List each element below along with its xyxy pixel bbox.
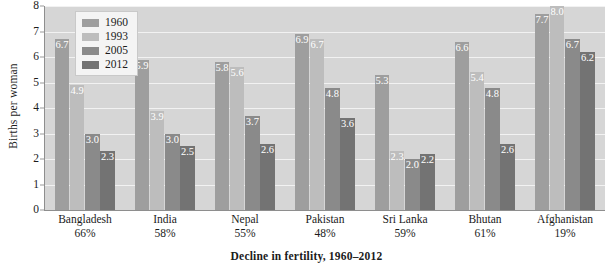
y-axis-tick-label: 8 xyxy=(33,0,39,12)
x-axis-line xyxy=(45,210,605,211)
bar-value-label: 2.5 xyxy=(181,147,194,158)
bar: 2.0 xyxy=(405,159,420,210)
x-axis-category-name: Bhutan xyxy=(468,213,501,226)
bar: 6.7 xyxy=(565,39,580,210)
bar-value-label: 5.6 xyxy=(231,68,244,79)
legend-swatch-icon xyxy=(82,61,99,69)
bar-value-label: 2.3 xyxy=(101,152,114,163)
x-axis-category-name: Afghanistan xyxy=(537,213,593,226)
bar: 5.6 xyxy=(230,67,245,210)
bar: 6.7 xyxy=(55,39,70,210)
x-axis-category-percent: 55% xyxy=(231,226,258,240)
legend: 1960199320052012 xyxy=(75,11,138,76)
bar: 3.9 xyxy=(150,111,165,210)
bar: 6.9 xyxy=(295,34,310,210)
bar-value-label: 4.8 xyxy=(486,89,499,100)
bar-value-label: 4.9 xyxy=(71,86,84,97)
y-axis-tick-label: 4 xyxy=(33,102,39,114)
bar-value-label: 3.6 xyxy=(341,119,354,130)
x-axis-category-name: Bangladesh xyxy=(58,213,112,226)
y-axis-title: Births per woman xyxy=(2,0,24,212)
x-axis-category: Bhutan61% xyxy=(468,213,501,240)
bar-group: 5.85.63.72.6 xyxy=(205,6,285,210)
bar-value-label: 6.6 xyxy=(455,43,468,54)
bar: 2.2 xyxy=(420,154,435,210)
bar: 8.0 xyxy=(550,6,565,210)
bar-value-label: 4.8 xyxy=(326,89,339,100)
x-axis-categories: Bangladesh66%India58%Nepal55%Pakistan48%… xyxy=(45,213,605,247)
bar-value-label: 7.7 xyxy=(535,15,548,26)
y-axis-tick-label: 1 xyxy=(33,179,39,191)
legend-item-label: 1960 xyxy=(105,17,128,29)
legend-swatch-icon xyxy=(82,19,99,27)
bar: 6.7 xyxy=(310,39,325,210)
bar-value-label: 6.7 xyxy=(566,40,579,51)
bar: 3.0 xyxy=(165,134,180,211)
bar: 7.7 xyxy=(535,14,550,210)
legend-item[interactable]: 2005 xyxy=(82,44,128,57)
legend-item-label: 1993 xyxy=(105,31,128,43)
x-axis-category-percent: 66% xyxy=(58,226,112,240)
bar: 6.2 xyxy=(580,52,595,210)
bar-group: 5.32.32.02.2 xyxy=(365,6,445,210)
x-axis-category: Afghanistan19% xyxy=(537,213,593,240)
legend-item-label: 2005 xyxy=(105,45,128,57)
x-axis-category-percent: 59% xyxy=(382,226,427,240)
bar: 3.0 xyxy=(85,134,100,211)
bar: 2.6 xyxy=(500,144,515,210)
bar: 5.8 xyxy=(215,62,230,210)
x-axis-category-name: India xyxy=(153,213,177,226)
bar-value-label: 2.3 xyxy=(391,152,404,163)
x-axis-category: India58% xyxy=(153,213,177,240)
x-axis-category: Nepal55% xyxy=(231,213,258,240)
bar: 2.3 xyxy=(390,151,405,210)
y-axis-tick-label: 6 xyxy=(33,51,39,63)
bar-value-label: 6.7 xyxy=(311,40,324,51)
x-axis-category-percent: 48% xyxy=(306,226,345,240)
bar: 5.9 xyxy=(135,60,150,210)
legend-item-label: 2012 xyxy=(105,59,128,71)
bar: 5.4 xyxy=(470,72,485,210)
bar-value-label: 6.9 xyxy=(295,35,308,46)
y-axis-tick-label: 5 xyxy=(33,77,39,89)
legend-item[interactable]: 2012 xyxy=(82,58,128,71)
bar-value-label: 2.0 xyxy=(406,160,419,171)
legend-item[interactable]: 1993 xyxy=(82,30,128,43)
y-axis-title-text: Births per woman xyxy=(7,63,19,149)
y-axis-ticks: 012345678 xyxy=(22,6,42,210)
bar: 4.8 xyxy=(485,88,500,210)
bar-value-label: 5.4 xyxy=(471,73,484,84)
legend-item[interactable]: 1960 xyxy=(82,16,128,29)
bar-value-label: 3.0 xyxy=(86,135,99,146)
bar-value-label: 2.6 xyxy=(501,145,514,156)
bar: 2.5 xyxy=(180,146,195,210)
bar-group: 6.65.44.82.6 xyxy=(445,6,525,210)
legend-swatch-icon xyxy=(82,33,99,41)
fertility-bar-chart: Births per woman 012345678 6.74.93.02.35… xyxy=(0,0,613,273)
bar: 2.3 xyxy=(100,151,115,210)
bar: 6.6 xyxy=(455,42,470,210)
y-axis-tick-label: 3 xyxy=(33,128,39,140)
bar-value-label: 8.0 xyxy=(551,7,564,18)
bar-value-label: 5.8 xyxy=(215,63,228,74)
legend-swatch-icon xyxy=(82,47,99,55)
bar-group: 7.78.06.76.2 xyxy=(525,6,605,210)
y-axis-tick-label: 7 xyxy=(33,26,39,38)
bar-value-label: 6.2 xyxy=(581,53,594,64)
x-axis-category-percent: 58% xyxy=(153,226,177,240)
bar: 3.6 xyxy=(340,118,355,210)
bar-value-label: 6.7 xyxy=(55,40,68,51)
y-axis-tick-label: 0 xyxy=(33,204,39,216)
x-axis-category-name: Pakistan xyxy=(306,213,345,226)
x-axis-category-percent: 61% xyxy=(468,226,501,240)
bar-group: 6.96.74.83.6 xyxy=(285,6,365,210)
bar-value-label: 2.6 xyxy=(261,145,274,156)
x-axis-category-name: Nepal xyxy=(231,213,258,226)
bar-value-label: 3.7 xyxy=(246,117,259,128)
x-axis-category: Sri Lanka59% xyxy=(382,213,427,240)
bar: 4.9 xyxy=(70,85,85,210)
x-axis-category-name: Sri Lanka xyxy=(382,213,427,226)
bar-value-label: 3.0 xyxy=(166,135,179,146)
bar-value-label: 5.3 xyxy=(375,76,388,87)
x-axis-category: Bangladesh66% xyxy=(58,213,112,240)
